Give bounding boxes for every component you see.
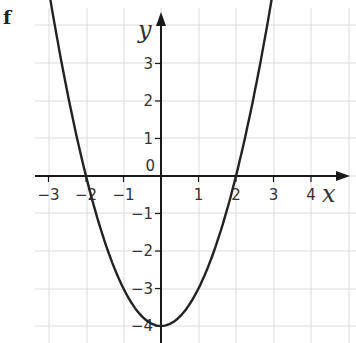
- x-tick-label: 3: [269, 186, 279, 204]
- x-tick-label: −1: [112, 186, 134, 204]
- x-tick-label: 1: [194, 186, 204, 204]
- y-tick-label: 2: [143, 92, 153, 110]
- y-tick-label: −2: [131, 242, 153, 260]
- y-tick-label: −3: [131, 280, 153, 298]
- origin-label: 0: [145, 157, 155, 175]
- x-tick-label: 4: [306, 186, 316, 204]
- x-axis-label: x: [322, 180, 336, 208]
- parabola-chart: −3−2−11234321−1−2−3−40 x y: [0, 0, 356, 343]
- y-axis-label: y: [137, 16, 152, 44]
- x-tick-label: −3: [37, 186, 59, 204]
- x-axis-arrow-icon: [336, 171, 350, 181]
- y-tick-label: −1: [131, 205, 153, 223]
- y-axis-arrow-icon: [156, 12, 166, 26]
- y-tick-label: 1: [143, 130, 153, 148]
- y-tick-label: 3: [143, 55, 153, 73]
- y-tick-label: −4: [131, 317, 153, 335]
- axes: [35, 12, 350, 343]
